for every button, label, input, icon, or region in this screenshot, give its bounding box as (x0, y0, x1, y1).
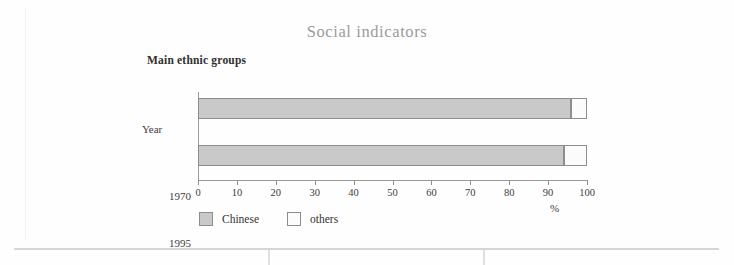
footer-divider-1 (268, 250, 270, 265)
footer-rule (14, 248, 719, 250)
x-tick-label-60: 60 (411, 187, 451, 198)
legend-item-others[interactable]: others (287, 212, 338, 226)
x-tick-label-20: 20 (256, 187, 296, 198)
footer-divider-2 (483, 250, 485, 265)
x-tick-label-50: 50 (373, 187, 413, 198)
legend-swatch-others-icon (287, 212, 301, 226)
x-tick-label-30: 30 (295, 187, 335, 198)
legend-item-chinese[interactable]: Chinese (199, 212, 259, 226)
bar-segment-others-1995 (564, 145, 587, 166)
y-axis-title: Year (142, 123, 162, 135)
x-tick-90 (548, 180, 549, 185)
chart-legend: Chineseothers (199, 212, 338, 226)
bar-segment-chinese-1970 (198, 98, 571, 119)
x-tick-label-70: 70 (450, 187, 490, 198)
x-tick-70 (470, 180, 471, 185)
x-tick-10 (237, 180, 238, 185)
x-tick-label-90: 90 (528, 187, 568, 198)
plot-area: 19701995 0102030405060708090100 % (198, 92, 587, 180)
x-tick-label-0: 0 (178, 187, 218, 198)
x-tick-100 (587, 180, 588, 185)
x-tick-label-40: 40 (334, 187, 374, 198)
x-tick-label-10: 10 (217, 187, 257, 198)
x-tick-20 (276, 180, 277, 185)
legend-swatch-chinese-icon (199, 212, 213, 226)
chart-subtitle: Main ethnic groups (147, 54, 246, 66)
x-tick-label-80: 80 (489, 187, 529, 198)
x-tick-60 (431, 180, 432, 185)
page-margin-rule (25, 8, 26, 240)
x-tick-30 (315, 180, 316, 185)
figure-page: Social indicators Main ethnic groups Yea… (0, 0, 734, 265)
x-tick-40 (354, 180, 355, 185)
legend-label: others (310, 213, 338, 225)
legend-label: Chinese (222, 213, 259, 225)
bar-segment-others-1970 (571, 98, 587, 119)
x-tick-0 (198, 180, 199, 185)
bar-segment-chinese-1995 (198, 145, 564, 166)
x-tick-50 (393, 180, 394, 185)
x-axis-unit-label: % (550, 202, 559, 214)
x-tick-label-100: 100 (567, 187, 607, 198)
page-title: Social indicators (0, 22, 734, 42)
x-tick-80 (509, 180, 510, 185)
